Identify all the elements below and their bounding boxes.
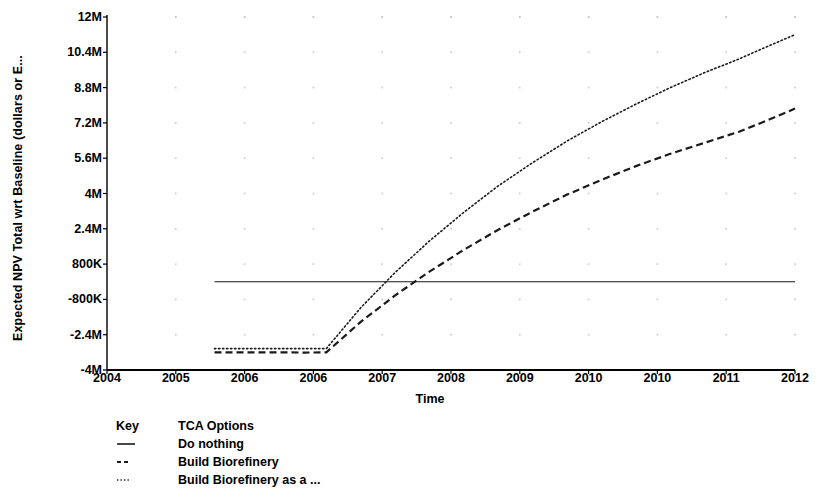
line-style-icon bbox=[116, 439, 140, 449]
grid-dot bbox=[657, 16, 659, 18]
grid-dot bbox=[450, 334, 452, 336]
series-line-2 bbox=[215, 35, 796, 349]
x-axis-tick-label: 2012 bbox=[781, 372, 809, 385]
legend-item[interactable]: Build Biorefinery as a ... bbox=[116, 471, 536, 489]
x-axis-tick-label: 2008 bbox=[437, 372, 465, 385]
x-axis-tick-label: 2004 bbox=[93, 372, 121, 385]
grid-dot bbox=[244, 334, 246, 336]
grid-dot bbox=[519, 122, 521, 124]
grid-dot bbox=[175, 263, 177, 265]
grid-dot bbox=[313, 228, 315, 230]
grid-dot bbox=[175, 87, 177, 89]
grid-dot bbox=[588, 299, 590, 301]
x-axis-tick-label: 2006 bbox=[299, 372, 327, 385]
grid-dot bbox=[381, 87, 383, 89]
grid-dot bbox=[313, 193, 315, 195]
grid-dot bbox=[657, 299, 659, 301]
grid-dot bbox=[657, 228, 659, 230]
grid-dot bbox=[175, 334, 177, 336]
grid-dot bbox=[657, 87, 659, 89]
grid-dot bbox=[381, 157, 383, 159]
grid-dot bbox=[381, 228, 383, 230]
grid-dot bbox=[588, 334, 590, 336]
legend-header-key: Key bbox=[116, 419, 178, 433]
grid-dot bbox=[794, 193, 796, 195]
grid-dot bbox=[175, 157, 177, 159]
x-axis-tick-label: 2010 bbox=[643, 372, 671, 385]
grid-dot bbox=[725, 157, 727, 159]
grid-dot bbox=[794, 263, 796, 265]
grid-dot bbox=[725, 334, 727, 336]
grid-dot bbox=[725, 263, 727, 265]
x-axis-title-container: Time bbox=[0, 392, 818, 406]
grid-dot bbox=[725, 299, 727, 301]
legend-swatch-solid bbox=[116, 439, 178, 449]
grid-dot bbox=[657, 52, 659, 54]
grid-dot bbox=[519, 16, 521, 18]
series-line-1 bbox=[215, 109, 796, 353]
x-axis-tick-label: 2006 bbox=[231, 372, 259, 385]
legend-header-row: Key TCA Options bbox=[116, 417, 536, 435]
grid-dot bbox=[450, 122, 452, 124]
grid-dot bbox=[175, 16, 177, 18]
grid-dot bbox=[244, 87, 246, 89]
grid-dot bbox=[381, 52, 383, 54]
grid-dot bbox=[450, 263, 452, 265]
line-style-icon bbox=[116, 475, 140, 485]
grid-dot bbox=[794, 16, 796, 18]
legend-item[interactable]: Build Biorefinery bbox=[116, 453, 536, 471]
grid-dot bbox=[519, 52, 521, 54]
grid-dot bbox=[244, 52, 246, 54]
grid-dot bbox=[381, 193, 383, 195]
legend-header-title: TCA Options bbox=[178, 419, 254, 433]
grid-dot bbox=[794, 299, 796, 301]
grid-dot bbox=[725, 228, 727, 230]
grid-dot bbox=[794, 52, 796, 54]
grid-dot bbox=[725, 16, 727, 18]
grid-dot bbox=[313, 157, 315, 159]
grid-dot bbox=[450, 193, 452, 195]
grid-dot bbox=[588, 228, 590, 230]
x-axis-title: Time bbox=[416, 392, 445, 406]
grid-dot bbox=[588, 122, 590, 124]
grid-dot bbox=[450, 299, 452, 301]
grid-dot bbox=[175, 122, 177, 124]
grid-dot bbox=[381, 263, 383, 265]
grid-dot bbox=[313, 299, 315, 301]
grid-dot bbox=[657, 193, 659, 195]
x-axis-tick-label: 2009 bbox=[506, 372, 534, 385]
grid-dot bbox=[175, 299, 177, 301]
grid-dot bbox=[588, 193, 590, 195]
grid-dot bbox=[450, 16, 452, 18]
grid-dot bbox=[381, 334, 383, 336]
grid-dot bbox=[725, 87, 727, 89]
grid-dot bbox=[725, 193, 727, 195]
grid-dot bbox=[725, 52, 727, 54]
grid-dot bbox=[519, 263, 521, 265]
grid-dot bbox=[313, 16, 315, 18]
legend-item-label: Build Biorefinery bbox=[178, 455, 279, 469]
grid-dot bbox=[244, 122, 246, 124]
grid-dot bbox=[794, 87, 796, 89]
legend-item[interactable]: Do nothing bbox=[116, 435, 536, 453]
grid-dot bbox=[450, 87, 452, 89]
x-axis-tick-label: 2010 bbox=[575, 372, 603, 385]
legend-item-label: Build Biorefinery as a ... bbox=[178, 473, 320, 487]
legend: Key TCA Options Do nothingBuild Biorefin… bbox=[116, 417, 536, 489]
grid-dot bbox=[244, 228, 246, 230]
grid-dot bbox=[588, 87, 590, 89]
grid-dot bbox=[450, 52, 452, 54]
grid-dot bbox=[794, 122, 796, 124]
plot-area bbox=[0, 0, 818, 399]
grid-dot bbox=[657, 122, 659, 124]
grid-dot bbox=[519, 193, 521, 195]
grid-dot bbox=[175, 228, 177, 230]
grid-dot bbox=[175, 193, 177, 195]
grid-dot bbox=[313, 52, 315, 54]
legend-entries: Do nothingBuild BiorefineryBuild Biorefi… bbox=[116, 435, 536, 489]
grid-dot bbox=[519, 334, 521, 336]
grid-dot bbox=[313, 122, 315, 124]
grid-dot bbox=[519, 299, 521, 301]
grid-dot bbox=[244, 157, 246, 159]
grid-dot bbox=[381, 299, 383, 301]
